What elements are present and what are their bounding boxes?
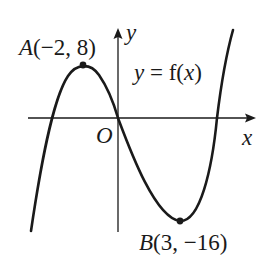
x-axis-label: x xyxy=(241,125,253,150)
origin-label: O xyxy=(96,123,113,148)
point-b-label: B(3, −16) xyxy=(139,230,227,255)
y-axis-label: y xyxy=(124,20,137,45)
function-graph: A(−2, 8) B(3, −16) y x O y = f(x) xyxy=(0,0,264,267)
curve-f xyxy=(31,30,233,231)
point-b-marker xyxy=(177,218,184,225)
point-a-label: A(−2, 8) xyxy=(17,35,96,60)
function-label: y = f(x) xyxy=(132,60,202,85)
point-a-marker xyxy=(80,62,87,69)
